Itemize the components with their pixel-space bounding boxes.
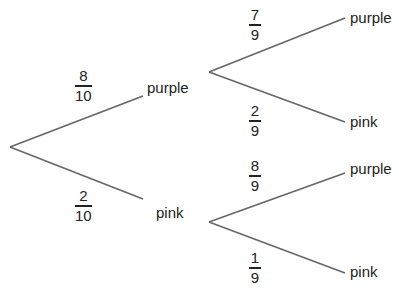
branch-purple-purple bbox=[209, 18, 345, 72]
label-purple-purple: purple bbox=[350, 10, 392, 25]
prob-purple-pink: 2 9 bbox=[249, 103, 261, 139]
label-purple-pink: pink bbox=[350, 114, 378, 129]
denominator: 10 bbox=[75, 88, 92, 104]
numerator: 2 bbox=[79, 188, 87, 204]
numerator: 1 bbox=[251, 250, 259, 266]
branch-root-purple bbox=[10, 96, 143, 147]
prob-pink-pink: 1 9 bbox=[249, 250, 261, 286]
prob-root-pink: 2 10 bbox=[75, 188, 92, 224]
numerator: 8 bbox=[79, 68, 87, 84]
denominator: 9 bbox=[251, 123, 259, 139]
denominator: 10 bbox=[75, 208, 92, 224]
branch-pink-pink bbox=[209, 222, 345, 273]
numerator: 7 bbox=[251, 7, 259, 23]
prob-purple-purple: 7 9 bbox=[249, 7, 261, 43]
prob-pink-purple: 8 9 bbox=[249, 158, 261, 194]
prob-root-purple: 8 10 bbox=[75, 68, 92, 104]
label-pink-purple: purple bbox=[350, 161, 392, 176]
denominator: 9 bbox=[251, 27, 259, 43]
numerator: 2 bbox=[251, 103, 259, 119]
label-pink-pink: pink bbox=[350, 264, 378, 279]
denominator: 9 bbox=[251, 178, 259, 194]
label-purple-1: purple bbox=[147, 80, 189, 95]
label-pink-1: pink bbox=[156, 205, 184, 220]
denominator: 9 bbox=[251, 270, 259, 286]
tree-branches bbox=[0, 0, 399, 297]
branch-pink-purple bbox=[209, 173, 345, 222]
branch-purple-pink bbox=[209, 72, 345, 122]
numerator: 8 bbox=[251, 158, 259, 174]
